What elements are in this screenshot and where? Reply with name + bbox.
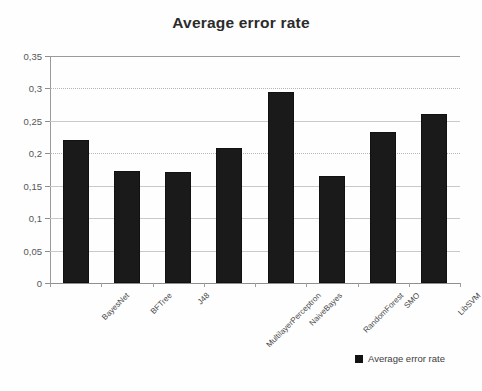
x-axis-label-randomforest: RandomForest bbox=[361, 291, 405, 335]
x-axis-label-bftree: BFTree bbox=[149, 291, 174, 316]
legend-label: Average error rate bbox=[368, 353, 445, 364]
x-axis-label-bayesnet: BayesNet bbox=[100, 291, 131, 322]
gridline-0-05 bbox=[50, 251, 460, 252]
x-tick-mark bbox=[101, 283, 102, 287]
gridline-0-2 bbox=[50, 153, 460, 154]
bar-libsvm bbox=[421, 114, 447, 283]
y-tick-label: 0 bbox=[37, 278, 42, 289]
x-axis-label-j48: J48 bbox=[196, 291, 211, 306]
gridline-0-15 bbox=[50, 186, 460, 187]
bar-smo bbox=[370, 132, 396, 283]
x-tick-mark bbox=[153, 283, 154, 287]
gridline-0-25 bbox=[50, 121, 460, 122]
y-axis-line bbox=[50, 56, 51, 283]
bar-bayesnet bbox=[63, 140, 89, 283]
x-tick-mark bbox=[204, 283, 205, 287]
legend-swatch-icon bbox=[355, 355, 363, 363]
y-tick-label: 0,35 bbox=[24, 51, 43, 62]
y-tick-label: 0,1 bbox=[29, 213, 42, 224]
bar-chart: Average error rate 0,350,30,250,20,150,1… bbox=[0, 0, 482, 391]
x-tick-mark bbox=[50, 283, 51, 287]
plot-area bbox=[50, 56, 460, 283]
bar-j48 bbox=[165, 172, 191, 283]
bar-naivebayes bbox=[268, 92, 294, 283]
x-tick-mark bbox=[306, 283, 307, 287]
chart-legend: Average error rate bbox=[355, 353, 445, 364]
x-tick-mark bbox=[460, 283, 461, 287]
x-tick-mark bbox=[255, 283, 256, 287]
bar-multilayerperceptron bbox=[216, 148, 242, 283]
y-tick-label: 0,05 bbox=[24, 245, 43, 256]
y-tick-label: 0,25 bbox=[24, 115, 43, 126]
x-tick-mark bbox=[358, 283, 359, 287]
y-tick-label: 0,15 bbox=[24, 180, 43, 191]
x-axis-label-smo: SMO bbox=[402, 291, 421, 310]
bar-randomforest bbox=[319, 176, 345, 283]
gridline-0-35 bbox=[50, 56, 460, 57]
x-axis-label-libsvm: LibSVM bbox=[457, 291, 482, 317]
x-tick-mark bbox=[409, 283, 410, 287]
bar-bftree bbox=[114, 171, 140, 283]
chart-title: Average error rate bbox=[0, 14, 482, 32]
y-tick-label: 0,3 bbox=[29, 83, 42, 94]
gridline-0-3 bbox=[50, 88, 460, 89]
gridline-0-1 bbox=[50, 218, 460, 219]
y-tick-label: 0,2 bbox=[29, 148, 42, 159]
